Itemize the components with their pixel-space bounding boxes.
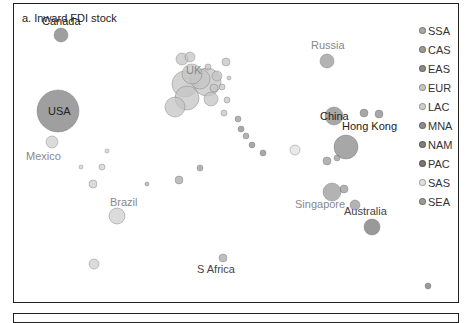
data-point-russia xyxy=(320,54,334,68)
label-brazil: Brazil xyxy=(110,196,138,208)
label-russia: Russia xyxy=(311,39,345,51)
data-point xyxy=(212,71,222,81)
label-canada: Canada xyxy=(42,15,81,27)
legend-label: SAS xyxy=(428,177,450,189)
legend-swatch-icon xyxy=(419,65,426,72)
legend-label: MNA xyxy=(428,120,452,132)
data-point xyxy=(235,116,241,122)
data-point xyxy=(175,176,183,184)
label-australia: Australia xyxy=(344,205,387,217)
chart-panel-next xyxy=(13,313,459,323)
legend-swatch-icon xyxy=(419,103,426,110)
label-singapore: Singapore xyxy=(295,198,345,210)
data-point xyxy=(219,84,225,90)
legend-swatch-icon xyxy=(419,179,426,186)
legend-item-cas: CAS xyxy=(419,40,452,59)
data-point-hong-kong xyxy=(334,135,358,159)
data-point xyxy=(99,164,105,170)
data-point xyxy=(227,76,231,80)
data-point xyxy=(89,259,99,269)
legend-label: PAC xyxy=(428,158,450,170)
label-hong-kong: Hong Kong xyxy=(342,120,397,132)
legend-swatch-icon xyxy=(419,141,426,148)
legend-swatch-icon xyxy=(419,122,426,129)
legend-swatch-icon xyxy=(419,198,426,205)
label-mexico: Mexico xyxy=(26,150,61,162)
bubble-plot xyxy=(14,4,460,304)
legend-swatch-icon xyxy=(419,160,426,167)
data-point xyxy=(375,110,383,118)
data-point xyxy=(238,126,244,132)
data-point xyxy=(323,157,331,165)
data-point xyxy=(205,64,211,70)
label-usa: USA xyxy=(48,105,71,117)
label-s-africa: S Africa xyxy=(197,263,235,275)
legend-label: NAM xyxy=(428,139,452,151)
data-point xyxy=(185,52,195,62)
data-point-australia xyxy=(364,219,380,235)
legend-item-lac: LAC xyxy=(419,97,452,116)
data-point xyxy=(145,182,149,186)
data-point xyxy=(243,133,249,139)
data-point xyxy=(425,283,431,289)
legend-item-mna: MNA xyxy=(419,116,452,135)
data-point-canada xyxy=(54,28,68,42)
legend-item-eas: EAS xyxy=(419,59,452,78)
data-point-brazil xyxy=(109,208,125,224)
data-point xyxy=(290,145,300,155)
data-point xyxy=(165,97,185,117)
data-point xyxy=(197,165,203,171)
legend-label: EUR xyxy=(428,82,451,94)
legend-item-sea: SEA xyxy=(419,192,452,211)
legend-label: CAS xyxy=(428,44,451,56)
data-point xyxy=(210,84,218,92)
legend-label: EAS xyxy=(428,63,450,75)
data-point xyxy=(222,58,230,66)
legend: SSACASEASEURLACMNANAMPACSASSEA xyxy=(419,21,452,211)
legend-label: SEA xyxy=(428,196,450,208)
data-point xyxy=(224,97,230,103)
chart-panel-inward-fdi: a. Inward FDI stock CanadaUSAMexicoBrazi… xyxy=(13,3,459,303)
legend-item-sas: SAS xyxy=(419,173,452,192)
legend-item-pac: PAC xyxy=(419,154,452,173)
data-point xyxy=(105,149,109,153)
legend-label: LAC xyxy=(428,101,449,113)
data-point xyxy=(79,165,83,169)
legend-item-ssa: SSA xyxy=(419,21,452,40)
legend-label: SSA xyxy=(428,25,450,37)
data-point xyxy=(89,180,97,188)
data-point xyxy=(360,109,368,117)
legend-swatch-icon xyxy=(419,84,426,91)
data-point-mexico xyxy=(46,136,58,148)
data-point xyxy=(249,142,255,148)
data-point xyxy=(260,150,266,156)
data-point xyxy=(204,92,218,106)
legend-item-eur: EUR xyxy=(419,78,452,97)
label-uk: UK xyxy=(186,64,201,76)
legend-item-nam: NAM xyxy=(419,135,452,154)
data-point-s-africa xyxy=(219,254,227,262)
legend-swatch-icon xyxy=(419,46,426,53)
data-point xyxy=(221,110,227,116)
legend-swatch-icon xyxy=(419,27,426,34)
